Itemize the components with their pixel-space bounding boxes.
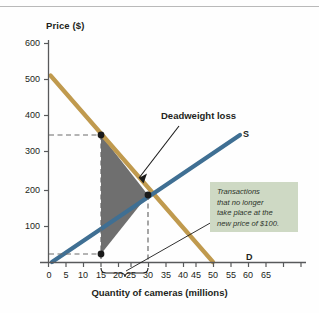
callout-line-1: Transactions [217,187,292,198]
x-axis-title: Quantity of cameras (millions) [0,287,319,298]
y-axis-title: Price ($) [46,20,84,31]
callout-line-4: new price of $100. [217,219,292,230]
chart-canvas [0,0,319,313]
y-axis-ticks [44,44,49,227]
callout-line-2: that no longer [217,198,292,209]
y-tick-100: 100 [14,221,40,231]
supply-curve-label: S [243,129,249,139]
y-tick-300: 300 [14,146,40,156]
transactions-callout: Transactions that no longer take place a… [210,182,298,232]
deadweight-loss-region [101,135,148,254]
y-tick-400: 400 [14,110,40,120]
deadweight-loss-chart: Price ($) Quantity of cameras (millions)… [0,0,319,313]
deadweight-loss-label: Deadweight loss [161,110,236,121]
deadweight-loss-arrow [139,126,179,184]
x-axis-ticks [49,263,302,268]
y-tick-600: 600 [14,38,40,48]
y-tick-500: 500 [14,74,40,84]
y-tick-200: 200 [14,185,40,195]
callout-line-3: take place at the [217,208,292,219]
demand-curve-label: D [246,252,253,262]
x-tick-65: 65 [255,270,277,280]
